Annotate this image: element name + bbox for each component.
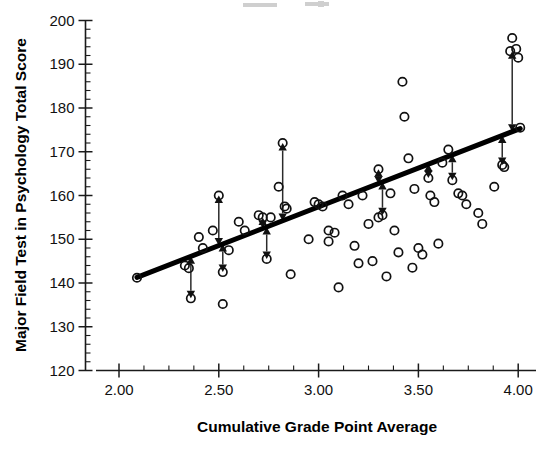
data-point bbox=[408, 263, 416, 271]
data-point bbox=[382, 272, 390, 280]
y-tick-label: 190 bbox=[49, 55, 74, 72]
y-tick-label: 140 bbox=[49, 274, 74, 291]
data-point bbox=[500, 163, 508, 171]
data-point bbox=[390, 226, 398, 234]
data-point bbox=[324, 237, 332, 245]
data-point bbox=[219, 300, 227, 308]
data-point bbox=[350, 242, 358, 250]
data-point bbox=[400, 113, 408, 121]
y-tick-label: 200 bbox=[49, 12, 74, 29]
data-point bbox=[235, 218, 243, 226]
x-tick-label: 2.00 bbox=[104, 381, 133, 398]
data-point bbox=[418, 250, 426, 258]
data-point bbox=[490, 183, 498, 191]
scatter-plot-figure: 120130140150160170180190200 2.002.503.00… bbox=[0, 0, 554, 449]
x-axis: 2.002.503.003.504.00 bbox=[96, 364, 536, 398]
y-tick-label: 150 bbox=[49, 230, 74, 247]
data-point bbox=[209, 226, 217, 234]
data-point bbox=[398, 78, 406, 86]
y-tick-label: 180 bbox=[49, 99, 74, 116]
data-point bbox=[274, 183, 282, 191]
data-point bbox=[434, 239, 442, 247]
data-point bbox=[364, 220, 372, 228]
x-tick-label: 4.00 bbox=[504, 381, 533, 398]
y-axis-title: Major Field Test in Psychology Total Sco… bbox=[12, 38, 29, 352]
x-axis-title: Cumulative Grade Point Average bbox=[197, 418, 437, 435]
data-point bbox=[195, 233, 203, 241]
data-point bbox=[508, 34, 516, 42]
residual-arrow-layer bbox=[187, 51, 517, 298]
data-point bbox=[462, 200, 470, 208]
x-tick-label: 2.50 bbox=[204, 381, 233, 398]
data-point bbox=[404, 154, 412, 162]
data-point bbox=[478, 220, 486, 228]
data-point bbox=[304, 235, 312, 243]
residual-arrow bbox=[215, 196, 223, 246]
data-point bbox=[430, 198, 438, 206]
data-point bbox=[282, 204, 290, 212]
y-tick-label: 160 bbox=[49, 187, 74, 204]
data-point bbox=[334, 283, 342, 291]
data-point bbox=[354, 259, 362, 267]
data-point bbox=[410, 185, 418, 193]
data-point bbox=[344, 200, 352, 208]
data-point bbox=[286, 270, 294, 278]
x-tick-label: 3.00 bbox=[304, 381, 333, 398]
data-point bbox=[368, 257, 376, 265]
data-point bbox=[358, 191, 366, 199]
y-tick-label: 170 bbox=[49, 143, 74, 160]
y-tick-label: 130 bbox=[49, 318, 74, 335]
x-tick-label: 3.50 bbox=[404, 381, 433, 398]
y-axis: 120130140150160170180190200 bbox=[49, 12, 92, 379]
data-point bbox=[394, 248, 402, 256]
y-tick-label: 120 bbox=[49, 362, 74, 379]
scan-artifact bbox=[243, 1, 329, 7]
residual-arrow bbox=[508, 51, 516, 132]
plot-canvas: 120130140150160170180190200 2.002.503.00… bbox=[0, 0, 554, 449]
data-point bbox=[386, 189, 394, 197]
data-point bbox=[474, 209, 482, 217]
data-point bbox=[444, 145, 452, 153]
